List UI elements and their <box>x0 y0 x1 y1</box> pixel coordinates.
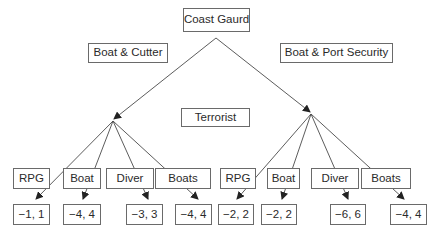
left-strategy-diver: Diver <box>106 168 154 189</box>
right-payoff-diver: −6, 6 <box>330 204 366 225</box>
left-payoff-rpg: −1, 1 <box>13 204 50 225</box>
right-strategy-boat: Boat <box>267 168 300 189</box>
right-payoff-boats: −4, 4 <box>390 204 427 225</box>
game-tree-diagram: Coast Gaurd Boat & Cutter Boat & Port Se… <box>0 0 440 237</box>
right-strategy-rpg: RPG <box>220 168 256 189</box>
left-strategy-boat: Boat <box>63 168 101 189</box>
player-label-terrorist: Terrorist <box>181 108 250 127</box>
right-strategy-boats: Boats <box>361 168 411 189</box>
left-payoff-boat: −4, 4 <box>63 204 101 225</box>
left-payoff-diver: −3, 3 <box>126 204 163 225</box>
move-label-boat-port-security: Boat & Port Security <box>280 43 393 63</box>
left-strategy-rpg: RPG <box>13 168 50 189</box>
root-node-coast-guard: Coast Gaurd <box>183 8 250 32</box>
right-strategy-diver: Diver <box>311 168 359 189</box>
right-payoff-boat: −2, 2 <box>261 204 297 225</box>
right-payoff-rpg: −2, 2 <box>218 204 254 225</box>
left-payoff-boats: −4, 4 <box>175 204 212 225</box>
move-label-boat-cutter: Boat & Cutter <box>88 43 168 63</box>
left-strategy-boats: Boats <box>155 168 211 189</box>
